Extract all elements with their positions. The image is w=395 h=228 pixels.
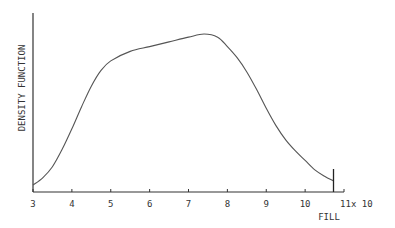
x-tick-label-6: 6 (147, 199, 152, 209)
x-tick-label-9: 9 (264, 199, 269, 209)
x-tick-label-11: 11 (340, 199, 351, 209)
x-axis-multiplier: x 10 (351, 199, 373, 209)
x-tick-label-10: 10 (300, 199, 311, 209)
x-tick-label-7: 7 (186, 199, 191, 209)
density-chart: 34567891011 DENSITY FUNCTION FILL x 10 (0, 0, 395, 228)
y-axis-label: DENSITY FUNCTION (17, 45, 27, 132)
density-curve (33, 34, 334, 185)
x-tick-labels: 34567891011 (30, 199, 351, 209)
axes (33, 13, 344, 192)
x-axis-label: FILL (318, 212, 340, 222)
x-tick-label-4: 4 (69, 199, 74, 209)
x-tick-label-3: 3 (30, 199, 35, 209)
x-tick-label-8: 8 (225, 199, 230, 209)
x-tick-label-5: 5 (108, 199, 113, 209)
